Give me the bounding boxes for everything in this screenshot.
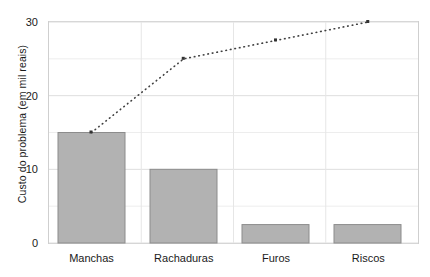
bar-manchas xyxy=(58,133,125,244)
x-tick-label-manchas: Manchas xyxy=(69,252,114,264)
x-tick-label-riscos: Riscos xyxy=(352,252,385,264)
x-tick-label-furos: Furos xyxy=(262,252,290,264)
bar-riscos xyxy=(334,225,401,243)
plot-area xyxy=(0,0,430,277)
x-tick-label-rachaduras: Rachaduras xyxy=(154,252,213,264)
pareto-chart: 30 20 10 0 Custo do problema (em mil rea… xyxy=(0,0,430,277)
bar-furos xyxy=(242,225,309,243)
bar-rachaduras xyxy=(150,169,217,243)
